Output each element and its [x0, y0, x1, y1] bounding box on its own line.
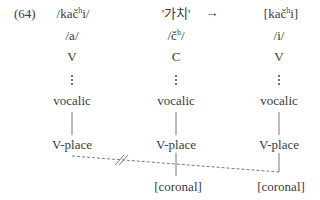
- delink-mark-2: [119, 155, 128, 165]
- association-lines: [0, 0, 320, 200]
- spreading-dashed-line: [72, 156, 279, 172]
